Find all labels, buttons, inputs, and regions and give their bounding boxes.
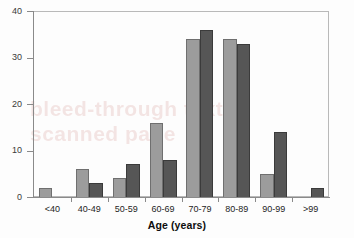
y-axis-tick — [27, 11, 33, 12]
bars-layer — [34, 11, 329, 197]
x-axis-tick — [108, 198, 109, 202]
x-axis-tick-label: 40-49 — [71, 204, 108, 214]
x-axis-tick — [218, 198, 219, 202]
bar — [237, 44, 251, 197]
bar — [39, 188, 53, 197]
y-axis-tick-label: 10 — [0, 146, 22, 155]
x-axis-tick — [255, 198, 256, 202]
x-axis-tick-label: 50-59 — [108, 204, 145, 214]
x-axis-tick-label: 90-99 — [255, 204, 292, 214]
bar — [163, 160, 177, 197]
y-axis-tick — [27, 104, 33, 105]
x-axis-tick — [71, 198, 72, 202]
bar-chart-figure: bleed-through text scanned page 01020304… — [0, 0, 354, 238]
x-axis-tick-label: >99 — [292, 204, 329, 214]
x-axis-tick — [182, 198, 183, 202]
bar — [76, 169, 90, 197]
x-axis-tick-label: 80-89 — [218, 204, 255, 214]
x-axis-title: Age (years) — [0, 219, 354, 231]
bar — [113, 178, 127, 197]
x-axis-tick-label: 70-79 — [182, 204, 219, 214]
y-axis-tick-label: 20 — [0, 100, 22, 109]
bar — [126, 164, 140, 197]
bar — [200, 30, 214, 197]
bar — [311, 188, 325, 197]
y-axis-tick — [27, 197, 33, 198]
x-axis-tick — [145, 198, 146, 202]
y-axis-tick — [27, 58, 33, 59]
y-axis-tick-label: 30 — [0, 53, 22, 62]
y-axis-tick-label: 40 — [0, 7, 22, 16]
x-axis-tick-label: <40 — [34, 204, 71, 214]
y-axis-tick-label: 0 — [0, 193, 22, 202]
bar — [223, 39, 237, 197]
bar — [150, 123, 164, 197]
x-axis-tick-label: 60-69 — [145, 204, 182, 214]
bar — [260, 174, 274, 197]
bar — [186, 39, 200, 197]
bar — [89, 183, 103, 197]
x-axis-tick — [292, 198, 293, 202]
bar — [274, 132, 288, 197]
y-axis-tick — [27, 151, 33, 152]
